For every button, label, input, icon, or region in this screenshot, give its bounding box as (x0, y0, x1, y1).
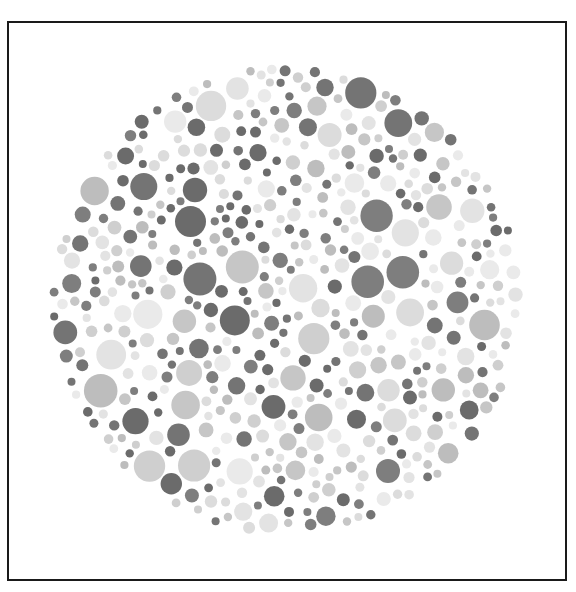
plate-dot (345, 173, 365, 193)
plate-dot (436, 157, 449, 170)
plate-dot (261, 256, 269, 264)
plate-dot (76, 359, 88, 371)
plate-dot (182, 102, 193, 113)
plate-dot (131, 351, 140, 360)
plate-dot (283, 315, 291, 323)
plate-dot (346, 161, 354, 169)
plate-dot (135, 115, 149, 129)
plate-dot (457, 348, 474, 365)
plate-dot (227, 458, 253, 484)
plate-dot (336, 444, 350, 458)
plate-dot (445, 411, 453, 419)
plate-dot (340, 109, 352, 121)
plate-dot (389, 154, 397, 162)
plate-dot (270, 339, 279, 348)
plate-dot (343, 341, 359, 357)
plate-dot (273, 253, 288, 268)
plate-dot (334, 94, 343, 103)
plate-dot (343, 517, 351, 525)
plate-dot (483, 240, 491, 248)
plate-dot (255, 385, 264, 394)
plate-dot (396, 162, 404, 170)
plate-dot (390, 95, 401, 106)
plate-dot (114, 305, 131, 322)
plate-dot (351, 266, 384, 299)
plate-dot (404, 490, 414, 500)
plate-dot (406, 425, 422, 441)
plate-dot (129, 339, 137, 347)
plate-dot (486, 249, 494, 257)
plate-dot (199, 247, 207, 255)
plate-dot (204, 303, 218, 317)
plate-dot (292, 396, 303, 407)
plate-dot (436, 363, 447, 374)
plate-dot (339, 76, 347, 84)
plate-dot (120, 461, 128, 469)
plate-dot (355, 483, 364, 492)
plate-dot (249, 144, 266, 161)
plate-dot (397, 449, 407, 459)
plate-dot (257, 71, 266, 80)
plate-dot (272, 299, 280, 307)
plate-dot (302, 183, 312, 193)
plate-dot (263, 168, 271, 176)
plate-dot (108, 221, 122, 235)
plate-dot (337, 493, 350, 506)
plate-dot (424, 442, 435, 453)
plate-dot (111, 245, 122, 256)
plate-dot (366, 510, 375, 519)
plate-dot (427, 424, 443, 440)
plate-dot (252, 328, 264, 340)
plate-dot (244, 297, 252, 305)
plate-dot (301, 82, 311, 92)
plate-dot (110, 196, 125, 211)
plate-dot (369, 149, 383, 163)
plate-dot (140, 333, 154, 347)
plate-dot (339, 328, 350, 339)
plate-dot (301, 240, 312, 251)
plate-dot (118, 326, 130, 338)
plate-dot (210, 144, 223, 157)
plate-dot (409, 168, 420, 179)
plate-dot (203, 160, 218, 175)
plate-dot (210, 233, 221, 244)
plate-dot (374, 235, 382, 243)
plate-dot (125, 130, 136, 141)
plate-dot (429, 172, 441, 184)
plate-dot (398, 150, 408, 160)
plate-dot (199, 423, 214, 438)
plate-dot (109, 444, 118, 453)
plate-dot (104, 434, 114, 444)
plate-dot (462, 390, 470, 398)
plate-dot (214, 355, 231, 372)
plate-dot (254, 502, 262, 510)
plate-dot (504, 227, 512, 235)
plate-dot (280, 65, 291, 76)
plate-dot (128, 280, 136, 288)
plate-dot (421, 183, 433, 195)
plate-dot (307, 97, 326, 116)
plate-dot (135, 145, 144, 154)
plate-dot (440, 252, 463, 275)
plate-dot (425, 123, 444, 142)
plate-dot (123, 230, 137, 244)
plate-dot (374, 134, 382, 142)
plate-dot (403, 391, 417, 405)
plate-dot (262, 302, 271, 311)
plate-dot (421, 336, 435, 350)
plate-dot (490, 225, 502, 237)
plate-dot (337, 188, 345, 196)
plate-dot (117, 175, 129, 187)
plate-dot (214, 127, 230, 143)
plate-dot (134, 450, 165, 481)
plate-dot (115, 276, 125, 286)
plate-dot (167, 423, 190, 446)
plate-dot (153, 106, 161, 114)
plate-dot (426, 194, 452, 220)
plate-dot (288, 409, 298, 419)
plate-dot (183, 263, 216, 296)
plate-dot (130, 173, 157, 200)
plate-dot (445, 134, 457, 146)
plate-dot (328, 280, 342, 294)
plate-dot (236, 126, 246, 136)
